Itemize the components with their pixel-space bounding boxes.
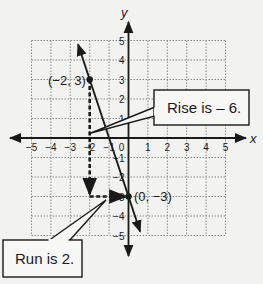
y-tick-label: 2: [119, 94, 125, 105]
axes: [10, 22, 246, 256]
data-point: [87, 76, 93, 82]
rise-callout: Rise is – 6.: [91, 90, 249, 133]
point-label-b: (0, −3): [134, 189, 172, 204]
point-label-a: (−2, 3): [48, 73, 86, 88]
y-tick-label: 5: [119, 36, 125, 47]
y-tick-label: 4: [119, 55, 125, 66]
y-tick-label: −5: [113, 231, 125, 242]
run-callout-tail: [48, 200, 106, 241]
y-tick-label: 3: [119, 75, 125, 86]
x-tick-label: 2: [165, 142, 171, 153]
x-tick-label: 5: [223, 142, 229, 153]
data-point: [125, 193, 131, 199]
y-tick-label: −4: [113, 211, 125, 222]
x-tick-label: 4: [203, 142, 209, 153]
x-tick-label: −4: [45, 142, 57, 153]
slope-graph-figure: −5−4−3−2−101234554321−1−2−3−4−5 y x (−2,…: [0, 0, 263, 284]
x-tick-label: −3: [65, 142, 77, 153]
x-tick-label: 3: [184, 142, 190, 153]
x-tick-label: 0: [119, 142, 125, 153]
x-tick-label: −5: [26, 142, 38, 153]
coordinate-plane: −5−4−3−2−101234554321−1−2−3−4−5 y x (−2,…: [0, 0, 263, 284]
x-axis-label: x: [249, 131, 257, 146]
y-axis-label: y: [120, 5, 129, 20]
run-callout: Run is 2.: [3, 200, 106, 277]
x-tick-label: 1: [145, 142, 151, 153]
run-callout-text: Run is 2.: [15, 250, 74, 267]
rise-callout-text: Rise is – 6.: [167, 99, 241, 116]
